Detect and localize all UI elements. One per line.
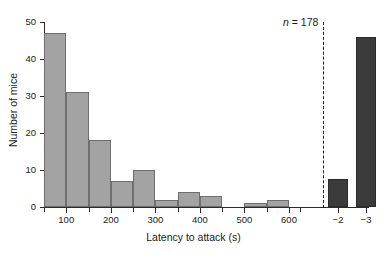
x-axis-tick (222, 208, 223, 212)
sample-size-value: = 178 (289, 16, 319, 28)
histogram-bar (89, 140, 111, 207)
histogram-bar (155, 200, 177, 207)
x-axis-tick (338, 208, 339, 213)
x-axis-line (44, 207, 369, 208)
histogram-bar (200, 196, 222, 207)
histogram-bar (267, 200, 289, 207)
histogram-bar-category (356, 37, 376, 207)
plot-area (44, 22, 369, 207)
histogram-bar (44, 33, 66, 207)
histogram-bar (178, 192, 200, 207)
histogram-bar (133, 170, 155, 207)
x-axis-tick (267, 208, 268, 212)
x-axis-tick (155, 208, 156, 213)
y-axis-tick-label: 50 (12, 16, 36, 27)
x-axis-tick (111, 208, 112, 213)
x-axis-tick-label: 200 (95, 214, 127, 225)
x-axis-tick (366, 208, 367, 213)
histogram-bar-category (328, 179, 348, 207)
x-axis-tick (178, 208, 179, 212)
x-axis-tick-label: 300 (139, 214, 171, 225)
x-axis-tick-label: 400 (184, 214, 216, 225)
x-axis-tick-label: −3 (350, 214, 382, 225)
x-axis-tick-label: 600 (273, 214, 305, 225)
histogram-figure: 01020304050 100200300400500600−2−3 n = 1… (0, 0, 387, 255)
histogram-bar (66, 92, 88, 207)
histogram-bar (244, 203, 266, 207)
histogram-bar (111, 181, 133, 207)
x-axis-tick (66, 208, 67, 213)
x-axis-title: Latency to attack (s) (0, 231, 387, 243)
sample-size-annotation: n = 178 (283, 16, 318, 28)
x-axis-tick-label: 100 (50, 214, 82, 225)
y-axis-tick-label: 0 (12, 201, 36, 212)
y-axis-title: Number of mice (7, 45, 19, 175)
x-axis-tick (44, 208, 45, 212)
x-axis-tick (89, 208, 90, 212)
x-axis-tick (300, 208, 301, 212)
x-axis-tick (133, 208, 134, 212)
category-divider-line (323, 22, 324, 208)
x-axis-tick-label: 500 (228, 214, 260, 225)
x-axis-tick (200, 208, 201, 213)
x-axis-tick (289, 208, 290, 213)
x-axis-tick (244, 208, 245, 213)
